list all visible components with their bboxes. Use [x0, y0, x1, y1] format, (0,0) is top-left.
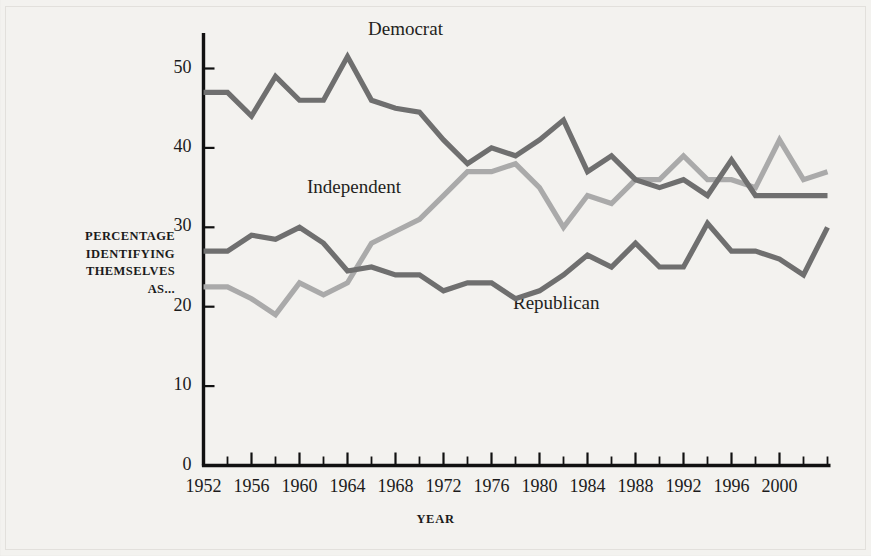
y-tick-label: 20: [146, 295, 192, 316]
y-tick-label: 40: [146, 136, 192, 157]
x-tick-label: 2000: [750, 476, 810, 497]
y-tick-label: 30: [146, 215, 192, 236]
chart-plot-area: [0, 0, 871, 556]
y-tick-label: 0: [146, 454, 192, 475]
series-line-democrat: [204, 57, 828, 196]
y-tick-label: 10: [146, 374, 192, 395]
y-tick-label: 50: [146, 57, 192, 78]
chart-page: PERCENTAGE IDENTIFYING THEMSELVES AS... …: [0, 0, 871, 556]
